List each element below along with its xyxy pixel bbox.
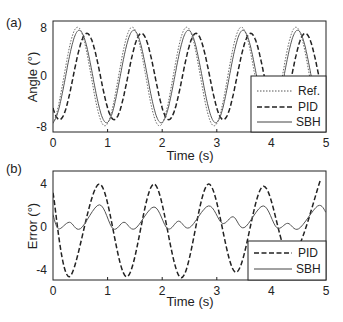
panel-b-ytick-0: 0	[40, 220, 47, 234]
panel-b-label: (b)	[6, 161, 22, 176]
xtick-label: 1	[104, 284, 111, 298]
xtick-label: 3	[213, 284, 220, 298]
panel-b-ytick-neg4: -4	[36, 263, 47, 277]
xtick-label: 2	[159, 284, 166, 298]
panel-b-xlabel: Time (s)	[166, 294, 213, 309]
xtick-label: 2	[159, 136, 166, 150]
panel-a-legend: Ref. PID SBH	[251, 76, 326, 132]
xtick-label: 4	[268, 136, 275, 150]
legend-sbh-label: SBH	[296, 115, 321, 129]
xtick-label: 3	[213, 136, 220, 150]
xtick-label: 1	[104, 136, 111, 150]
xtick-label: 5	[323, 136, 330, 150]
legend-ref-label: Ref.	[298, 84, 320, 98]
legend-b-sbh-label: SBH	[296, 262, 321, 276]
panel-b-ytick-4: 4	[40, 177, 47, 191]
xtick-label: 4	[268, 284, 275, 298]
xtick-label: 5	[323, 284, 330, 298]
panel-a-xlabel: Time (s)	[166, 148, 213, 163]
series-sbh	[53, 205, 326, 230]
panel-b-legend: PID SBH	[248, 241, 326, 280]
legend-b-pid-label: PID	[298, 246, 318, 260]
panel-a: (a) 8 0 -8 Angle (°) 012345 Time (s) Ref…	[6, 15, 330, 163]
xtick-label: 0	[50, 136, 57, 150]
panel-a-ytick-8: 8	[40, 21, 47, 35]
figure: (a) 8 0 -8 Angle (°) 012345 Time (s) Ref…	[0, 0, 343, 322]
panel-b: (b) 4 0 -4 Error (°) 012345 Time (s) PID…	[6, 161, 330, 309]
panel-a-ylabel: Angle (°)	[25, 52, 40, 103]
panel-a-label: (a)	[6, 15, 22, 30]
panel-a-ytick-neg8: -8	[36, 120, 47, 134]
xtick-label: 0	[50, 284, 57, 298]
panel-b-ylabel: Error (°)	[25, 203, 40, 249]
legend-pid-label: PID	[298, 100, 318, 114]
panel-a-ytick-0: 0	[40, 69, 47, 83]
